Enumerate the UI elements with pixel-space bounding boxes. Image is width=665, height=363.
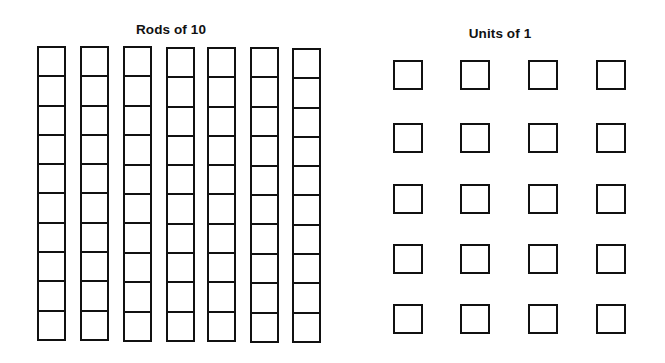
rod-cell: [209, 166, 234, 195]
rod-cell: [294, 226, 319, 255]
rod-cell: [294, 284, 319, 313]
rod-cell: [209, 283, 234, 312]
rod-cell: [39, 107, 64, 136]
rod-cell: [209, 108, 234, 137]
unit-cube: [393, 244, 423, 274]
rod-cell: [294, 50, 319, 79]
rod-cell: [125, 77, 150, 106]
rod-cell: [252, 255, 277, 284]
rod-cell: [294, 167, 319, 196]
rod-cell: [82, 107, 107, 136]
rod-cell: [125, 195, 150, 224]
unit-cube: [528, 304, 558, 334]
rod-cell: [168, 225, 193, 254]
rod-cell: [168, 254, 193, 283]
rod-cell: [252, 284, 277, 313]
rod-cell: [209, 313, 234, 340]
rod-cell: [168, 195, 193, 224]
unit-cube: [596, 304, 626, 334]
rod-cell: [125, 224, 150, 253]
rod-cell: [209, 49, 234, 78]
rod-cell: [294, 79, 319, 108]
rod-cell: [209, 225, 234, 254]
rod-cell: [82, 224, 107, 253]
rod-cell: [125, 136, 150, 165]
rod-of-ten: [80, 46, 109, 341]
rod-cell: [82, 136, 107, 165]
rod-cell: [294, 109, 319, 138]
rod-cell: [125, 313, 150, 340]
unit-cube: [393, 60, 423, 90]
unit-cube: [528, 184, 558, 214]
rod-cell: [294, 138, 319, 167]
rod-cell: [125, 107, 150, 136]
rod-of-ten: [37, 46, 66, 341]
rod-cell: [209, 195, 234, 224]
rod-cell: [168, 283, 193, 312]
rod-of-ten: [123, 46, 152, 342]
rod-cell: [125, 48, 150, 77]
unit-cube: [528, 244, 558, 274]
unit-cube: [528, 123, 558, 153]
rod-cell: [39, 77, 64, 106]
unit-cube: [393, 123, 423, 153]
rod-of-ten: [292, 48, 321, 343]
rod-cell: [252, 167, 277, 196]
rod-cell: [252, 49, 277, 78]
rod-cell: [252, 314, 277, 341]
unit-cube: [460, 60, 490, 90]
rod-cell: [39, 165, 64, 194]
unit-cube: [596, 184, 626, 214]
unit-cube: [596, 60, 626, 90]
unit-cube: [460, 123, 490, 153]
rod-cell: [294, 314, 319, 341]
rod-cell: [168, 166, 193, 195]
rod-cell: [82, 312, 107, 339]
rod-cell: [252, 225, 277, 254]
rod-cell: [168, 78, 193, 107]
rod-cell: [252, 78, 277, 107]
rod-cell: [82, 282, 107, 311]
unit-cube: [596, 244, 626, 274]
rod-cell: [252, 137, 277, 166]
rod-cell: [125, 254, 150, 283]
rod-cell: [125, 283, 150, 312]
units-of-one-title: Units of 1: [469, 26, 532, 41]
rod-cell: [39, 136, 64, 165]
unit-cube: [596, 123, 626, 153]
rod-cell: [168, 108, 193, 137]
rod-cell: [82, 48, 107, 77]
rod-cell: [82, 165, 107, 194]
rod-cell: [294, 255, 319, 284]
rod-cell: [82, 77, 107, 106]
rod-cell: [39, 194, 64, 223]
rod-cell: [209, 78, 234, 107]
rod-cell: [252, 108, 277, 137]
rod-cell: [82, 253, 107, 282]
rod-cell: [39, 312, 64, 339]
rod-cell: [168, 313, 193, 340]
rod-cell: [39, 253, 64, 282]
rod-cell: [82, 194, 107, 223]
rod-cell: [39, 282, 64, 311]
unit-cube: [460, 244, 490, 274]
unit-cube: [393, 184, 423, 214]
rod-of-ten: [207, 47, 236, 342]
rod-of-ten: [166, 47, 195, 342]
unit-cube: [528, 60, 558, 90]
rod-cell: [168, 49, 193, 78]
rod-cell: [252, 196, 277, 225]
rod-cell: [39, 48, 64, 77]
rod-cell: [209, 137, 234, 166]
rods-of-ten-title: Rods of 10: [136, 22, 206, 37]
rod-cell: [125, 166, 150, 195]
unit-cube: [460, 184, 490, 214]
rod-cell: [294, 196, 319, 225]
rod-of-ten: [250, 47, 279, 343]
rod-cell: [39, 224, 64, 253]
unit-cube: [460, 304, 490, 334]
unit-cube: [393, 304, 423, 334]
rod-cell: [168, 137, 193, 166]
rod-cell: [209, 254, 234, 283]
